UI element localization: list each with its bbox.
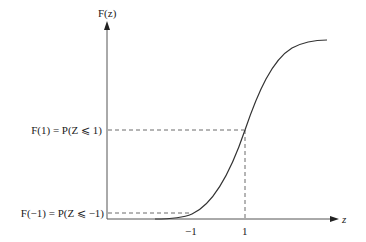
cdf-curve [155,40,327,219]
tick-label-1: 1 [242,225,248,237]
tick-label-minus1: −1 [185,225,197,237]
y-axis-label: F(z) [98,7,117,20]
x-axis-label: z [341,213,347,225]
y-axis-arrow-icon [104,21,110,30]
x-axis-arrow-icon [330,216,339,222]
f1-annotation: F(1) = P(Z ⩽ 1) [31,124,102,137]
fminus1-annotation: F(−1) = P(Z ⩽ −1) [21,207,105,220]
cdf-diagram: F(z) z −1 1 F(1) = P(Z ⩽ 1) F(−1) = P(Z … [0,0,366,242]
